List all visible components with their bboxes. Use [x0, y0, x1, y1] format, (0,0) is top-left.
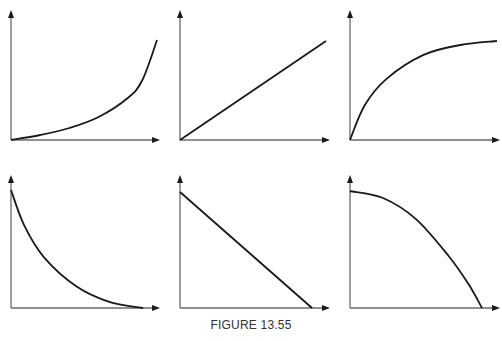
y-axis-arrow-icon: [177, 10, 183, 18]
x-axis-arrow-icon: [492, 137, 500, 143]
graph-curve-3: [350, 41, 497, 140]
graph-panel-4: [8, 175, 160, 311]
graph-curve-4: [11, 190, 143, 308]
y-axis-arrow-icon: [347, 175, 353, 183]
y-axis-arrow-icon: [177, 175, 183, 183]
graph-curve-2: [180, 41, 326, 140]
graph-panel-2: [177, 10, 330, 143]
graph-curve-1: [11, 40, 157, 140]
graph-panel-1: [8, 10, 160, 143]
x-axis-arrow-icon: [322, 137, 330, 143]
graph-curve-6: [350, 191, 482, 308]
x-axis-arrow-icon: [152, 305, 160, 311]
graph-panel-6: [347, 175, 500, 311]
y-axis-arrow-icon: [8, 10, 14, 18]
x-axis-arrow-icon: [322, 305, 330, 311]
x-axis-arrow-icon: [152, 137, 160, 143]
y-axis-arrow-icon: [347, 10, 353, 18]
graph-panel-5: [177, 175, 330, 311]
figure-grid: [0, 0, 502, 341]
graph-curve-5: [180, 192, 312, 308]
x-axis-arrow-icon: [492, 305, 500, 311]
figure-caption: FIGURE 13.55: [0, 318, 502, 332]
graph-panel-3: [347, 10, 500, 143]
y-axis-arrow-icon: [8, 175, 14, 183]
